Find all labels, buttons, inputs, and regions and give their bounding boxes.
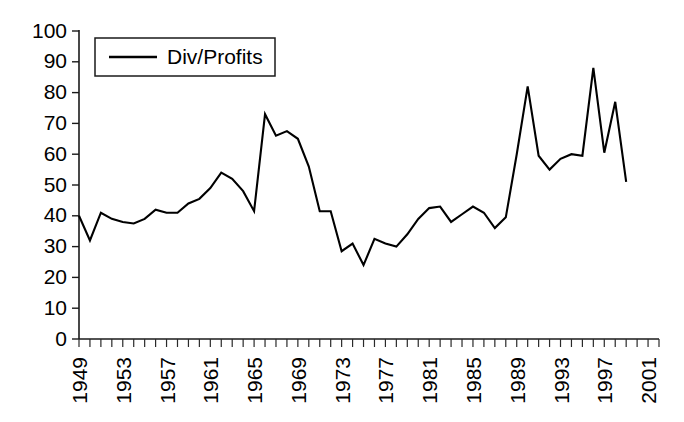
y-tick-label: 20 — [44, 265, 67, 288]
x-tick-label: 1981 — [418, 357, 441, 404]
x-tick-label: 1977 — [374, 357, 397, 404]
y-tick-label: 80 — [44, 80, 67, 103]
x-tick-label: 1953 — [112, 357, 135, 404]
y-tick-label: 30 — [44, 234, 67, 257]
x-tick-label: 1985 — [462, 357, 485, 404]
y-tick-label: 50 — [44, 173, 67, 196]
chart-container: 0102030405060708090100 19491953195719611… — [0, 0, 684, 422]
y-tick-label: 40 — [44, 203, 67, 226]
y-tick-label: 60 — [44, 142, 67, 165]
y-tick-label: 10 — [44, 296, 67, 319]
x-tick-label: 1989 — [506, 357, 529, 404]
x-tick-label: 1949 — [68, 357, 91, 404]
x-tick-label: 1997 — [593, 357, 616, 404]
x-tick-label: 1965 — [243, 357, 266, 404]
y-tick-label: 90 — [44, 49, 67, 72]
y-tick-label: 0 — [55, 327, 67, 350]
x-tick-label: 1969 — [287, 357, 310, 404]
legend-label-div-profits: Div/Profits — [167, 45, 263, 68]
y-tick-label: 70 — [44, 111, 67, 134]
y-tick-label: 100 — [32, 19, 67, 42]
x-tick-label: 1993 — [550, 357, 573, 404]
chart-legend: Div/Profits — [95, 38, 275, 76]
x-tick-label: 2001 — [637, 357, 660, 404]
x-tick-label: 1961 — [199, 357, 222, 404]
line-chart: 0102030405060708090100 19491953195719611… — [0, 0, 684, 422]
x-tick-label: 1973 — [331, 357, 354, 404]
x-tick-label: 1957 — [156, 357, 179, 404]
